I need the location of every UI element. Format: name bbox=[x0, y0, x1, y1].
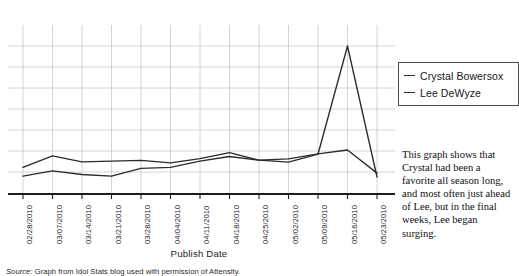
figure-caption: This graph shows that Crystal had been a… bbox=[402, 148, 511, 240]
source-text: Graph from Idol Stats blog used with per… bbox=[35, 267, 241, 276]
source-note: Source: Graph from Idol Stats blog used … bbox=[6, 267, 336, 276]
chart-area: 02/28/201003/07/201003/14/201003/21/2010… bbox=[0, 14, 398, 184]
chart-series-lines bbox=[8, 25, 395, 193]
plot-region bbox=[8, 25, 395, 193]
x-axis-title: Publish Date bbox=[0, 248, 398, 259]
line-dash-marker-icon bbox=[404, 75, 415, 76]
x-axis-tick-labels: 02/28/201003/07/201003/14/201003/21/2010… bbox=[0, 200, 398, 246]
chart-legend: Crystal Bowersox Lee DeWyze bbox=[398, 62, 519, 106]
legend-label-lee-dewyze: Lee DeWyze bbox=[420, 87, 481, 99]
legend-label-crystal-bowersox: Crystal Bowersox bbox=[420, 70, 503, 82]
legend-item-crystal-bowersox: Crystal Bowersox bbox=[404, 67, 518, 84]
source-label: Source: bbox=[6, 267, 33, 276]
line-dash-marker-icon bbox=[404, 92, 415, 93]
clipped-text-artifact bbox=[12, 0, 482, 6]
legend-item-lee-dewyze: Lee DeWyze bbox=[404, 84, 518, 101]
